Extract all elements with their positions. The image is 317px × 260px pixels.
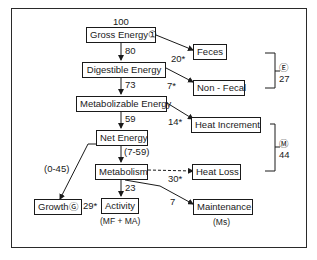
non-fecal-box: Non - Fecal — [193, 80, 245, 96]
digestible-to-metabolizable-value: 73 — [125, 79, 136, 90]
maintenance-sublabel: (Ms) — [213, 217, 230, 228]
non-fecal-value: 7* — [167, 80, 176, 91]
net-energy-box: Net Energy — [96, 130, 148, 146]
digestible-energy-box: Digestible Energy — [82, 62, 166, 78]
heat-loss-value: 30* — [168, 173, 182, 184]
gross-to-digestible-value: 80 — [125, 45, 136, 56]
net-to-growth-value: (0-45) — [44, 163, 69, 174]
maintenance-value: 7 — [170, 196, 175, 207]
metabolizable-energy-box: Metabolizable Energy — [76, 96, 167, 112]
growth-value: 29* — [83, 200, 97, 211]
growth-box: GrowthⒼ — [34, 199, 82, 215]
activity-box: Activity — [101, 198, 139, 214]
gross-energy-value: 100 — [113, 16, 129, 27]
metabolism-to-activity-value: 23 — [125, 182, 136, 193]
metabolism-total-value: 44 — [279, 149, 290, 160]
feces-value: 20* — [171, 53, 185, 64]
flow-arrows — [0, 0, 317, 260]
heat-loss-box: Heat Loss — [192, 164, 241, 180]
metabolism-symbol: Ⓜ — [279, 138, 289, 149]
excretion-symbol: Ⓔ — [279, 62, 289, 73]
gross-energy-box: Gross Energy① — [86, 27, 156, 43]
feces-box: Feces — [193, 44, 227, 60]
excretion-total-value: 27 — [279, 73, 290, 84]
maintenance-box: Maintenance — [193, 199, 253, 215]
net-to-metabolism-value: (7-59) — [124, 146, 149, 157]
metabolizable-to-net-value: 59 — [125, 113, 136, 124]
heat-increment-value: 14* — [168, 116, 182, 127]
metabolism-box: Metabolism — [95, 164, 148, 180]
activity-sublabel: (MF + MA) — [100, 216, 140, 227]
heat-increment-box: Heat Increment — [191, 117, 261, 133]
